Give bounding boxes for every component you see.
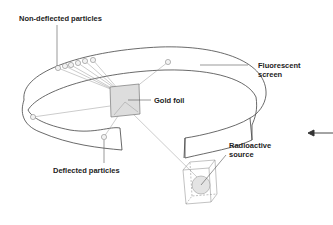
non-deflected-particles-label: Non-deflected particles bbox=[19, 14, 102, 23]
fluorescent-screen-label-line2: screen bbox=[258, 70, 301, 79]
diagram-graphic bbox=[0, 0, 333, 225]
particle-dots bbox=[30, 57, 170, 139]
leader-lines bbox=[57, 25, 248, 185]
left-arrow-icon bbox=[308, 130, 333, 136]
deflected-particles-label: Deflected particles bbox=[53, 166, 120, 175]
fluorescent-screen-label: Fluorescent screen bbox=[258, 61, 301, 79]
radioactive-source-label: Radioactive source bbox=[229, 141, 271, 159]
particle-paths bbox=[33, 60, 200, 180]
fluorescent-screen-label-line1: Fluorescent bbox=[258, 61, 301, 70]
rutherford-experiment-diagram: Non-deflected particles Gold foil Fluore… bbox=[0, 0, 333, 225]
radioactive-source-box bbox=[183, 160, 217, 204]
gold-foil bbox=[110, 84, 140, 117]
gold-foil-label: Gold foil bbox=[154, 96, 184, 105]
radioactive-source-label-line1: Radioactive bbox=[229, 141, 271, 150]
radioactive-source-label-line2: source bbox=[229, 150, 271, 159]
